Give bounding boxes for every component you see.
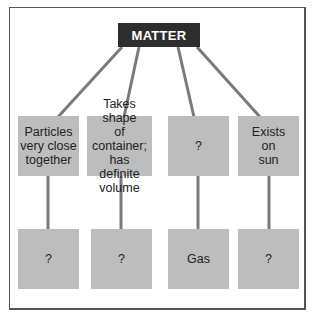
connector-root-to-top-3 bbox=[178, 47, 194, 117]
connector-root-to-top-4 bbox=[197, 47, 260, 117]
top-node-2: Takes shape of container; has definite v… bbox=[87, 116, 152, 176]
top-node-4-line: sun bbox=[252, 153, 285, 167]
top-node-1: Particles very close together bbox=[18, 116, 79, 176]
top-node-2-line: has definite bbox=[89, 153, 150, 181]
bottom-node-1-label: ? bbox=[45, 252, 52, 266]
top-node-4-line: on bbox=[252, 139, 285, 153]
bottom-node-3-label: Gas bbox=[187, 252, 210, 266]
top-node-3-label: ? bbox=[195, 139, 202, 153]
bottom-node-4-label: ? bbox=[265, 252, 272, 266]
root-node-matter: MATTER bbox=[118, 23, 200, 47]
top-node-2-line: volume bbox=[89, 181, 150, 195]
top-node-2-line: Takes shape bbox=[89, 97, 150, 125]
top-node-1-line: together bbox=[20, 153, 76, 167]
bottom-node-4: ? bbox=[238, 229, 299, 289]
bottom-node-2-label: ? bbox=[118, 252, 125, 266]
root-label: MATTER bbox=[132, 28, 187, 43]
bottom-node-2: ? bbox=[91, 229, 152, 289]
top-node-4: Exists on sun bbox=[238, 116, 299, 176]
top-node-2-line: of container; bbox=[89, 125, 150, 153]
bottom-node-1: ? bbox=[18, 229, 79, 289]
top-node-1-line: very close bbox=[20, 139, 76, 153]
bottom-node-3: Gas bbox=[168, 229, 229, 289]
top-node-4-line: Exists bbox=[252, 125, 285, 139]
top-node-1-line: Particles bbox=[20, 125, 76, 139]
top-node-3: ? bbox=[168, 116, 229, 176]
